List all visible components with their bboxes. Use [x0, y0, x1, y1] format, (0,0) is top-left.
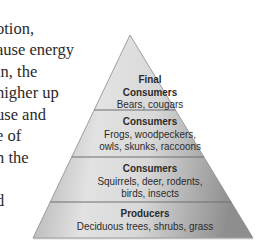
- level-primary-consumers: Consumers Squirrels, deer, rodents, bird…: [81, 162, 219, 200]
- level-title: Producers: [59, 207, 231, 220]
- level-producers: Producers Deciduous trees, shrubs, grass: [59, 207, 231, 232]
- level-examples: owls, skunks, raccoons: [86, 140, 215, 153]
- level-examples: Deciduous trees, shrubs, grass: [59, 220, 231, 233]
- level-examples: birds, insects: [81, 187, 219, 200]
- level-examples: Squirrels, deer, rodents,: [81, 175, 219, 188]
- level-title: Consumers: [107, 86, 193, 99]
- level-title: Consumers: [86, 115, 215, 128]
- level-final-consumers: Final Consumers Bears, cougars: [107, 73, 193, 111]
- level-title: Consumers: [81, 162, 219, 175]
- level-examples: Bears, cougars: [107, 98, 193, 111]
- level-examples: Frogs, woodpeckers,: [86, 128, 215, 141]
- level-secondary-consumers: Consumers Frogs, woodpeckers, owls, skun…: [86, 115, 215, 153]
- level-title: Final: [107, 73, 193, 86]
